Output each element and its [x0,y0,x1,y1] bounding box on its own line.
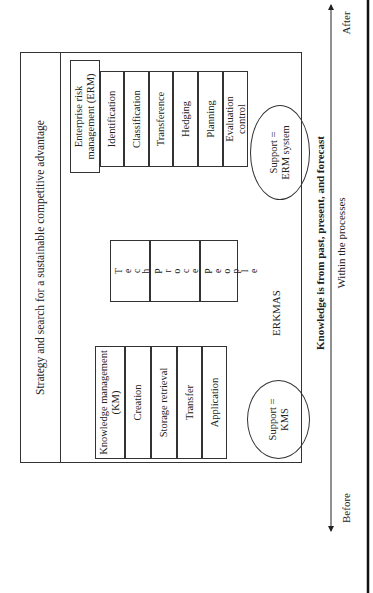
core-technology-letters: Technology [111,241,149,301]
title-strip: Strategy and search for a sustainable co… [20,52,61,463]
timeline-sub-label: Within the processes [335,43,348,443]
timeline-start-label: Before [340,483,353,533]
km-header: Knowledge management (KM) [95,346,125,459]
core-technology: Technology [110,240,150,302]
erkmas-diagram: Strategy and search for a sustainable co… [0,0,373,593]
erm-process-identification: Identification [100,71,124,167]
diagram-title: Strategy and search for a sustainable co… [34,120,47,395]
km-process-storage-retrieval: Storage retrieval [151,346,177,459]
erkmas-label: ERKMAS [270,273,283,353]
erm-process-transference: Transference [149,71,173,167]
erm-process-evaluation-control: Evaluation control [223,71,248,167]
erm-process-hedging: Hedging [173,71,198,167]
erm-support-ellipse: Support = ERM system [250,105,310,200]
core-processes: Processes [150,240,200,302]
km-support-ellipse: Support = KMS [247,380,310,459]
core-people: People [200,240,238,302]
erm-process-classification: Classification [124,71,149,167]
km-process-application: Application [202,346,227,459]
erm-header: Enterprise risk management (ERM) [70,60,100,173]
erm-process-planning: Planning [198,71,223,167]
core-people-letters: People [201,241,237,301]
timeline-bold-label: Knowledge is from past, present, and for… [314,43,327,443]
core-processes-letters: Processes [151,241,199,301]
km-process-creation: Creation [125,346,151,459]
timeline-end-label: After [340,3,353,43]
km-process-transfer: Transfer [177,346,202,459]
